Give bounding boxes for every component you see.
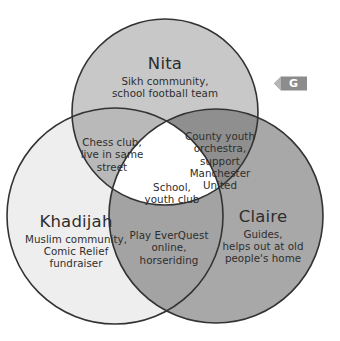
all-three-line-1: School, [136, 181, 208, 193]
set-label-khadijah: Khadijah Muslim community, Comic Relief … [14, 212, 138, 270]
set-name-claire: Claire [198, 207, 328, 226]
nita-claire-line-4: Manchester [183, 167, 257, 179]
grade-badge: G [274, 74, 307, 93]
set-label-claire: Claire Guides, helps out at old people's… [198, 207, 328, 265]
intersection-label-all-three: School, youth club [136, 181, 208, 206]
set-description-khadijah: Muslim community, Comic Relief fundraise… [14, 234, 138, 270]
set-label-nita: Nita Sikh community, school football tea… [96, 54, 234, 100]
all-three-line-2: youth club [136, 193, 208, 205]
grade-badge-letter: G [274, 74, 307, 93]
venn-circles-graphic [0, 0, 340, 341]
claire-desc-line-3: people's home [198, 253, 328, 265]
set-name-khadijah: Khadijah [14, 212, 138, 231]
nita-khadijah-line-2: live in same [66, 148, 158, 160]
khadijah-claire-line-2: online, [128, 241, 210, 253]
set-description-nita: Sikh community, school football team [96, 76, 234, 100]
nita-desc-line-2: school football team [96, 88, 234, 100]
intersection-label-khadijah-claire: Play EverQuest online, horseriding [128, 229, 210, 266]
set-name-nita: Nita [96, 54, 234, 73]
nita-claire-line-3: support [183, 155, 257, 167]
intersection-label-nita-khadijah: Chess club, live in same street [66, 136, 158, 173]
set-description-claire: Guides, helps out at old people's home [198, 229, 328, 265]
venn-diagram: Nita Sikh community, school football tea… [0, 0, 340, 341]
nita-claire-line-2: orchestra, [183, 142, 257, 154]
nita-khadijah-line-3: street [66, 161, 158, 173]
nita-khadijah-line-1: Chess club, [66, 136, 158, 148]
khadijah-claire-line-1: Play EverQuest [128, 229, 210, 241]
nita-claire-line-1: County youth [183, 130, 257, 142]
khadijah-claire-line-3: horseriding [128, 254, 210, 266]
khadijah-desc-line-3: fundraiser [14, 258, 138, 270]
